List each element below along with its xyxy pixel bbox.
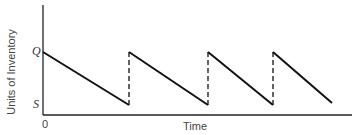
replenishment-lines (129, 52, 273, 105)
q-tick-label: Q (32, 44, 41, 59)
s-tick-label: S (33, 97, 39, 112)
y-axis-label: Units of Inventory (5, 29, 17, 115)
y-axis-label-container: Units of Inventory (0, 20, 22, 124)
x-axis-label: Time (183, 120, 207, 132)
inventory-chart (0, 0, 356, 135)
depletion-lines (43, 52, 332, 105)
origin-label: 0 (42, 118, 48, 130)
